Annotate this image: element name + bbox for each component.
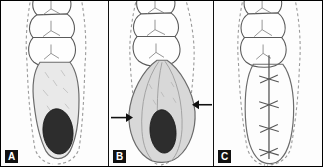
panel-b: B [108,1,214,166]
panel-label-a: A [5,150,18,163]
panel-a: A [1,1,108,166]
panel-c-illustration [214,1,322,166]
panel-b-illustration [109,1,214,166]
panel-c: C [213,1,322,166]
panel-label-c: C [218,150,231,163]
panel-label-b: B [113,150,126,163]
panel-a-illustration [1,1,108,166]
figure-container: A [0,0,323,167]
